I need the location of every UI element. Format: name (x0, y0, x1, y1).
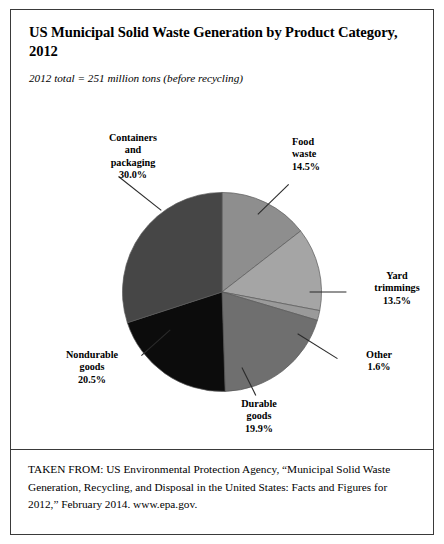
figure-frame: US Municipal Solid Waste Generation by P… (10, 9, 434, 535)
figure-page: US Municipal Solid Waste Generation by P… (0, 0, 444, 544)
slice-label-food-waste-line1: Food (292, 136, 362, 148)
slice-label-durable-goods: Durable goods 19.9% (216, 398, 302, 435)
slice-label-food-waste: Food waste 14.5% (292, 136, 362, 173)
slice-label-yard-trimmings: Yard trimmings 13.5% (351, 270, 443, 307)
slice-label-durable-goods-line2: goods (216, 410, 302, 422)
slice-value-nondurable-goods: 20.5% (43, 374, 141, 386)
slice-value-durable-goods: 19.9% (216, 423, 302, 435)
slice-value-containers: 30.0% (81, 169, 185, 181)
page-title: US Municipal Solid Waste Generation by P… (29, 23, 415, 60)
chart-subtitle: 2012 total = 251 million tons (before re… (29, 71, 415, 85)
pie-slices (122, 192, 321, 391)
slice-label-containers-line2: and (81, 144, 185, 156)
slice-value-other: 1.6% (342, 361, 416, 373)
figure-header: US Municipal Solid Waste Generation by P… (11, 10, 433, 85)
slice-label-containers-line1: Containers (81, 132, 185, 144)
slice-label-other: Other 1.6% (342, 349, 416, 374)
slice-label-containers: Containers and packaging 30.0% (81, 132, 185, 182)
slice-value-yard-trimmings: 13.5% (351, 295, 443, 307)
slice-value-food-waste: 14.5% (292, 161, 362, 173)
slice-label-durable-goods-line1: Durable (216, 398, 302, 410)
slice-label-nondurable-goods-line2: goods (43, 361, 141, 373)
slice-label-other-line1: Other (342, 349, 416, 361)
pie-chart: Containers and packaging 30.0% Food wast… (11, 106, 433, 466)
slice-label-nondurable-goods: Nondurable goods 20.5% (43, 349, 141, 386)
slice-label-nondurable-goods-line1: Nondurable (43, 349, 141, 361)
slice-label-yard-trimmings-line1: Yard (351, 270, 443, 282)
slice-label-containers-line3: packaging (81, 157, 185, 169)
slice-label-food-waste-line2: waste (292, 148, 362, 160)
source-citation: TAKEN FROM: US Environmental Protection … (11, 450, 433, 534)
slice-label-yard-trimmings-line2: trimmings (351, 282, 443, 294)
